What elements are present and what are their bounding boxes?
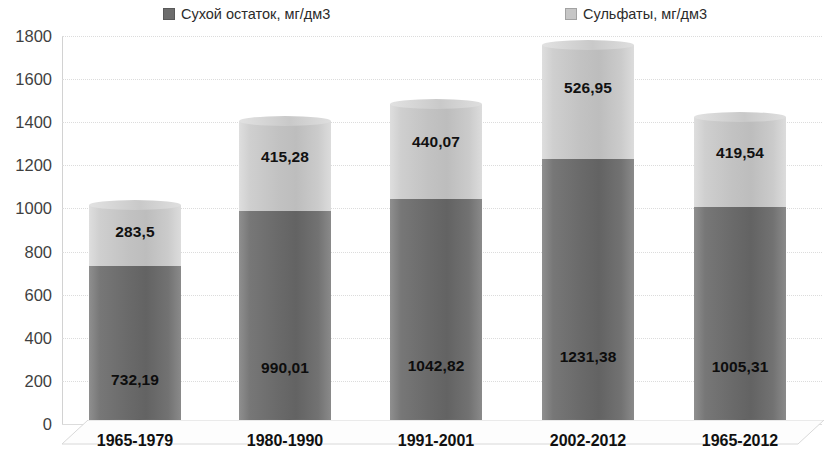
y-axis-tick-label: 1400 <box>0 113 52 132</box>
bar-segment-sulfates[interactable]: 526,95 <box>542 45 634 159</box>
bar-segment-sulfates[interactable]: 419,54 <box>694 117 786 207</box>
bar-value-label-dry-residue: 990,01 <box>239 359 331 377</box>
legend-label-dry-residue: Сухой остаток, мг/дм3 <box>181 6 330 22</box>
bar-value-label-sulfates: 419,54 <box>694 144 786 162</box>
bar-segment-dry-residue[interactable]: 732,19 <box>89 266 181 424</box>
chart-legend: Сухой остаток, мг/дм3 Сульфаты, мг/дм3 <box>0 6 835 28</box>
x-axis-tick-label: 1965-2012 <box>660 432 820 450</box>
plot-area: 732,19283,5990,01415,281042,82440,071231… <box>62 36 822 424</box>
bar-top-ellipse <box>89 200 181 210</box>
bar-column[interactable]: 1005,31419,54 <box>694 117 786 424</box>
bar-value-label-sulfates: 415,28 <box>239 148 331 166</box>
bar-segment-sulfates[interactable]: 415,28 <box>239 121 331 211</box>
y-axis-tick-label: 1200 <box>0 156 52 175</box>
bar-column[interactable]: 1042,82440,07 <box>390 104 482 424</box>
stacked-column-chart: Сухой остаток, мг/дм3 Сульфаты, мг/дм3 0… <box>0 0 835 460</box>
bar-base-ellipse <box>694 419 786 429</box>
y-axis-tick-label: 1600 <box>0 70 52 89</box>
bar-top-ellipse <box>390 99 482 109</box>
legend-swatch-sulfates <box>565 8 577 20</box>
bar-base-ellipse <box>542 419 634 429</box>
x-axis-tick-label: 1965-1979 <box>55 432 215 450</box>
bar-segment-dry-residue[interactable]: 1231,38 <box>542 159 634 424</box>
x-axis-tick-label: 2002-2012 <box>508 432 668 450</box>
bar-segment-dry-residue[interactable]: 990,01 <box>239 211 331 424</box>
bar-value-label-sulfates: 440,07 <box>390 133 482 151</box>
y-axis-tick-label: 200 <box>0 371 52 390</box>
bar-value-label-dry-residue: 1005,31 <box>694 358 786 376</box>
bar-segment-dry-residue[interactable]: 1005,31 <box>694 207 786 424</box>
bar-value-label-dry-residue: 732,19 <box>89 371 181 389</box>
y-axis-tick-label: 800 <box>0 242 52 261</box>
y-axis-tick-label: 0 <box>0 415 52 434</box>
legend-swatch-dry-residue <box>163 8 175 20</box>
bar-top-ellipse <box>239 116 331 126</box>
y-axis-tick-label: 600 <box>0 285 52 304</box>
x-axis-tick-label: 1980-1990 <box>205 432 365 450</box>
bar-value-label-sulfates: 526,95 <box>542 79 634 97</box>
bar-base-ellipse <box>239 419 331 429</box>
legend-item-dry-residue[interactable]: Сухой остаток, мг/дм3 <box>163 6 330 22</box>
legend-label-sulfates: Сульфаты, мг/дм3 <box>583 6 707 22</box>
bar-value-label-sulfates: 283,5 <box>89 223 181 241</box>
bar-column[interactable]: 990,01415,28 <box>239 121 331 424</box>
y-axis-line <box>62 36 63 424</box>
y-axis-tick-label: 1800 <box>0 27 52 46</box>
bar-value-label-dry-residue: 1042,82 <box>390 357 482 375</box>
y-axis-tick-label: 400 <box>0 328 52 347</box>
legend-item-sulfates[interactable]: Сульфаты, мг/дм3 <box>565 6 707 22</box>
bar-column[interactable]: 1231,38526,95 <box>542 45 634 424</box>
bar-base-ellipse <box>89 419 181 429</box>
bar-value-label-dry-residue: 1231,38 <box>542 348 634 366</box>
bar-base-ellipse <box>390 419 482 429</box>
bar-segment-sulfates[interactable]: 440,07 <box>390 104 482 199</box>
y-axis-tick-label: 1000 <box>0 199 52 218</box>
gridline <box>62 79 822 80</box>
bar-segment-sulfates[interactable]: 283,5 <box>89 205 181 266</box>
gridline <box>62 36 822 37</box>
bar-column[interactable]: 732,19283,5 <box>89 205 181 424</box>
y-axis-labels: 020040060080010001200140016001800 <box>0 36 56 424</box>
x-axis-tick-label: 1991-2001 <box>356 432 516 450</box>
bar-top-ellipse <box>542 40 634 50</box>
bar-top-ellipse <box>694 112 786 122</box>
bar-segment-dry-residue[interactable]: 1042,82 <box>390 199 482 424</box>
